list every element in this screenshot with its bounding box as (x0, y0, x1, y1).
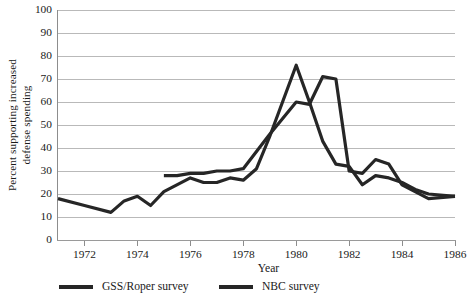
series-line-gss-roper (58, 65, 455, 212)
data-lines (0, 0, 471, 298)
defense-spending-line-chart: Percent supporting increased defense spe… (0, 0, 471, 298)
series-line-nbc (164, 77, 455, 199)
legend-swatch-nbc (219, 285, 253, 288)
legend-item-nbc: NBC survey (219, 278, 320, 296)
legend-item-gss-roper: GSS/Roper survey (59, 278, 189, 296)
legend-label-nbc: NBC survey (262, 280, 320, 294)
legend-swatch-gss-roper (59, 285, 93, 288)
legend-label-gss-roper: GSS/Roper survey (102, 280, 189, 294)
chart-legend: GSS/Roper survey NBC survey (0, 278, 471, 298)
